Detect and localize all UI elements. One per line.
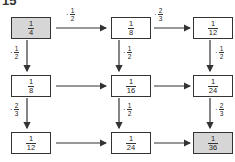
numerator: 1 — [128, 135, 134, 143]
numerator: 1 — [219, 45, 225, 52]
denominator: 3 — [158, 14, 164, 22]
denominator: 3 — [219, 109, 225, 117]
cell-r2c2: 136 — [193, 132, 233, 154]
numerator: 2 — [219, 102, 225, 109]
multiply-dot: · — [154, 11, 157, 19]
numerator: 1 — [128, 20, 134, 28]
numerator: 1 — [14, 45, 20, 52]
denominator: 2 — [219, 52, 225, 60]
cell-r0c1: 18 — [111, 17, 151, 39]
multiply-dot: · — [10, 106, 13, 114]
denominator: 3 — [14, 109, 20, 117]
cell-r1c1: 116 — [111, 75, 151, 97]
denominator: 24 — [126, 143, 136, 152]
multiply-dot: · — [215, 106, 218, 114]
numerator: 1 — [128, 78, 134, 86]
numerator: 1 — [210, 78, 216, 86]
cell-r2c1: 124 — [111, 132, 151, 154]
denominator: 2 — [127, 109, 133, 117]
numerator: 2 — [158, 7, 164, 14]
denominator: 24 — [208, 86, 218, 95]
numerator: 1 — [28, 135, 34, 143]
numerator: 1 — [127, 45, 133, 52]
denominator: 8 — [128, 28, 134, 37]
numerator: 1 — [28, 78, 34, 86]
label-v-r0c0: · 12 — [10, 45, 19, 60]
label-h-r0c1: · 23 — [154, 7, 163, 22]
cell-r0c0: 14 — [11, 17, 51, 39]
denominator: 2 — [70, 14, 76, 22]
numerator: 1 — [70, 7, 76, 14]
denominator: 4 — [28, 28, 34, 37]
label-v-r1c1: · 12 — [123, 102, 132, 117]
numerator: 1 — [210, 20, 216, 28]
numerator: 1 — [28, 20, 34, 28]
label-v-r1c0: · 23 — [10, 102, 19, 117]
cell-r1c2: 124 — [193, 75, 233, 97]
denominator: 12 — [208, 28, 218, 37]
multiply-dot: · — [123, 49, 126, 57]
label-h-r0c0: · 12 — [66, 7, 75, 22]
numerator: 1 — [127, 102, 133, 109]
cell-r1c0: 18 — [11, 75, 51, 97]
multiply-dot: · — [10, 49, 13, 57]
cell-r0c2: 112 — [193, 17, 233, 39]
multiply-dot: · — [66, 11, 69, 19]
label-v-r1c2: · 23 — [215, 102, 224, 117]
denominator: 2 — [127, 52, 133, 60]
denominator: 16 — [126, 86, 136, 95]
label-v-r0c2: · 12 — [215, 45, 224, 60]
denominator: 12 — [26, 143, 36, 152]
denominator: 36 — [208, 143, 218, 152]
numerator: 1 — [210, 135, 216, 143]
denominator: 2 — [14, 52, 20, 60]
cell-r2c0: 112 — [11, 132, 51, 154]
multiply-dot: · — [123, 106, 126, 114]
label-v-r0c1: · 12 — [123, 45, 132, 60]
numerator: 2 — [14, 102, 20, 109]
multiply-dot: · — [215, 49, 218, 57]
denominator: 8 — [28, 86, 34, 95]
